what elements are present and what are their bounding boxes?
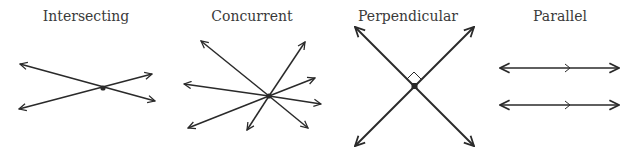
- perpendicular-diagram: [355, 27, 474, 146]
- intersecting-line-2: [19, 74, 152, 109]
- parallel-diagram: [500, 64, 619, 109]
- perpendicular-point: [412, 83, 418, 89]
- concurrent-ray-6: [188, 96, 269, 128]
- intersecting-diagram: [19, 64, 155, 109]
- line-diagrams: [0, 0, 632, 154]
- concurrent-point: [266, 93, 271, 98]
- intersection-point: [100, 85, 105, 90]
- concurrent-diagram: [184, 41, 321, 130]
- intersecting-line-1: [20, 64, 155, 101]
- right-angle-marker: [407, 72, 421, 79]
- concurrent-ray-2: [269, 42, 305, 96]
